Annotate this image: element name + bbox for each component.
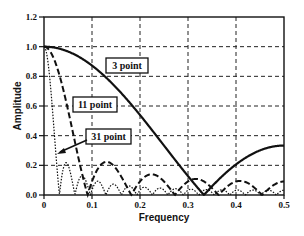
y-axis-title: Amplitude (12, 81, 23, 130)
y-tick-label: 0.4 (26, 131, 38, 141)
label-3-point: 3 point (106, 58, 148, 73)
x-tick-label: 0.3 (182, 200, 194, 210)
x-tick-label: 0.4 (230, 200, 242, 210)
frequency-response-chart: 0.00.20.40.60.81.01.2 00.10.20.30.40.5 F… (0, 0, 304, 236)
x-axis-ticks: 00.10.20.30.40.5 (42, 195, 290, 210)
curve-11-point (44, 47, 284, 195)
svg-text:31 point: 31 point (91, 131, 126, 142)
x-tick-label: 0 (42, 200, 47, 210)
y-tick-label: 0.2 (26, 160, 38, 170)
x-axis-title: Frequency (139, 212, 190, 223)
label-11-point: 11 point (73, 97, 117, 112)
y-tick-label: 0.6 (26, 101, 38, 111)
curve-31-point (44, 47, 284, 195)
y-tick-label: 0.8 (26, 71, 38, 81)
x-tick-label: 0.5 (278, 200, 290, 210)
x-tick-label: 0.2 (134, 200, 146, 210)
y-axis-ticks: 0.00.20.40.60.81.01.2 (26, 12, 44, 200)
y-tick-label: 1.0 (26, 42, 38, 52)
svg-text:11 point: 11 point (78, 99, 113, 110)
plot-curves (44, 47, 284, 195)
y-tick-label: 1.2 (26, 12, 38, 22)
y-tick-label: 0.0 (26, 190, 38, 200)
label-31-point: 31 point (57, 129, 131, 154)
svg-text:3 point: 3 point (112, 60, 142, 71)
curve-3-point (44, 47, 284, 195)
x-tick-label: 0.1 (86, 200, 98, 210)
arrowhead-icon (57, 148, 66, 154)
